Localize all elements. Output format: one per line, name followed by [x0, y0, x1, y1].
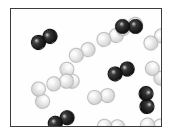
- molecule-container-box: [10, 8, 162, 127]
- atom-light-1: [97, 118, 113, 127]
- screenshot-root: [0, 0, 172, 138]
- atom-light-1: [140, 117, 156, 127]
- atom-dark-1: [115, 19, 130, 34]
- atom-dark-1: [139, 86, 155, 102]
